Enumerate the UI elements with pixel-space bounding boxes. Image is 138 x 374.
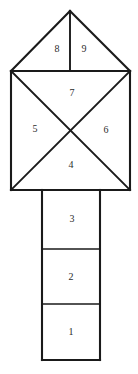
figure-canvas: 1 2 3 4 5 6 7 8 9: [0, 0, 138, 374]
region-label-3: 3: [70, 214, 75, 224]
region-label-2: 2: [69, 272, 74, 282]
region-label-6: 6: [104, 125, 109, 135]
region-label-4: 4: [69, 160, 74, 170]
region-label-7: 7: [70, 88, 75, 98]
region-label-1: 1: [69, 327, 74, 337]
region-label-9: 9: [82, 44, 87, 54]
region-label-8: 8: [55, 44, 60, 54]
region-label-5: 5: [33, 124, 38, 134]
partitioned-figure-diagram: [0, 0, 138, 374]
